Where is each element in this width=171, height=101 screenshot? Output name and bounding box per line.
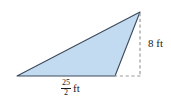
base-unit-label: ft xyxy=(73,83,80,94)
fraction-numerator: 25 xyxy=(61,79,71,87)
base-fraction: 25 2 xyxy=(61,79,71,98)
base-label: 25 2 ft xyxy=(61,79,80,98)
height-label: 8 ft xyxy=(148,38,163,49)
triangle-diagram-svg xyxy=(0,0,171,101)
geometry-figure: 8 ft 25 2 ft xyxy=(0,0,171,101)
triangle-shape xyxy=(17,12,140,76)
fraction-denominator: 2 xyxy=(63,89,69,97)
